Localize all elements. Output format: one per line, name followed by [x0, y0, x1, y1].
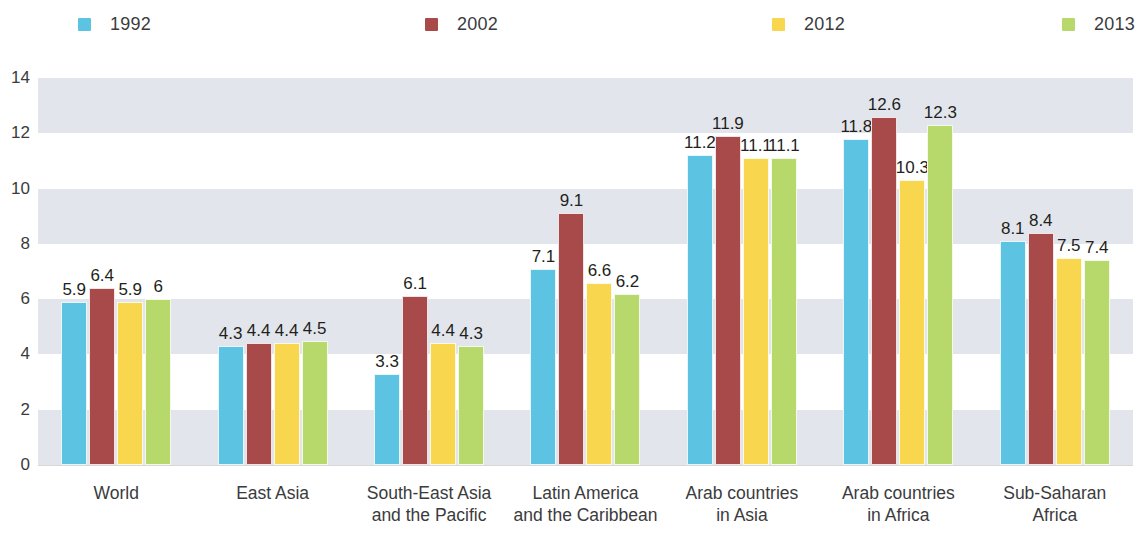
bar-rect[interactable]: [530, 269, 556, 465]
legend-label: 2012: [804, 15, 845, 33]
bar-rect[interactable]: [374, 374, 400, 465]
y-axis-tick-4: 4: [0, 345, 30, 362]
bar-rect[interactable]: [302, 341, 328, 465]
bar-1992[interactable]: 8.1: [1000, 78, 1026, 465]
bar-rect[interactable]: [743, 158, 769, 465]
bar-2013[interactable]: 6.2: [614, 78, 640, 465]
bar-rect[interactable]: [218, 346, 244, 465]
bar-rect[interactable]: [246, 343, 272, 465]
bar-rect[interactable]: [1000, 241, 1026, 465]
bar-value-label: 3.3: [375, 353, 399, 370]
category-label-2: South-East Asiaand the Pacific: [351, 482, 507, 526]
category-label-line2: in Africa: [820, 504, 976, 526]
legend-item-2013[interactable]: 2013: [1062, 14, 1135, 34]
bar-value-label: 9.1: [560, 192, 584, 209]
bar-rect[interactable]: [927, 125, 953, 465]
x-axis-category-labels: WorldEast AsiaSouth-East Asiaand the Pac…: [38, 474, 1133, 545]
bar-group-bars: 8.18.47.57.4: [977, 78, 1133, 465]
bar-rect[interactable]: [771, 158, 797, 465]
category-label-line2: and the Caribbean: [507, 504, 663, 526]
category-label-line2: in Asia: [664, 504, 820, 526]
bar-rect[interactable]: [430, 343, 456, 465]
bar-value-label: 6.6: [588, 262, 612, 279]
category-label-line2: and the Pacific: [351, 504, 507, 526]
bar-rect[interactable]: [1028, 233, 1054, 465]
category-label-1: East Asia: [194, 482, 350, 504]
category-label-line2: Africa: [977, 504, 1133, 526]
bar-group: 4.34.44.44.5: [194, 78, 350, 465]
bar-value-label: 4.5: [303, 320, 327, 337]
bar-2002[interactable]: 6.4: [89, 78, 115, 465]
bar-2002[interactable]: 4.4: [246, 78, 272, 465]
bar-rect[interactable]: [558, 213, 584, 465]
bar-rect[interactable]: [458, 346, 484, 465]
bar-rect[interactable]: [843, 139, 869, 465]
bar-value-label: 4.4: [431, 322, 455, 339]
legend-item-2002[interactable]: 2002: [425, 14, 498, 34]
bar-value-label: 12.6: [868, 96, 901, 113]
bar-value-label: 5.9: [62, 281, 86, 298]
bar-2012[interactable]: 7.5: [1056, 78, 1082, 465]
category-label-line1: Latin America: [532, 483, 638, 503]
bar-1992[interactable]: 4.3: [218, 78, 244, 465]
bar-rect[interactable]: [117, 302, 143, 465]
bar-rect[interactable]: [1056, 258, 1082, 465]
bar-group-bars: 7.19.16.66.2: [507, 78, 663, 465]
category-label-line1: Arab countries: [685, 483, 798, 503]
legend-item-2012[interactable]: 2012: [772, 14, 845, 34]
bar-2012[interactable]: 4.4: [430, 78, 456, 465]
bar-2013[interactable]: 11.1: [771, 78, 797, 465]
bar-1992[interactable]: 11.8: [843, 78, 869, 465]
bar-group-bars: 11.211.911.111.1: [664, 78, 820, 465]
bar-value-label: 4.3: [219, 325, 243, 342]
bar-2013[interactable]: 4.3: [458, 78, 484, 465]
bar-rect[interactable]: [899, 180, 925, 465]
bar-2012[interactable]: 5.9: [117, 78, 143, 465]
bar-group: 5.96.45.96: [38, 78, 194, 465]
bar-2013[interactable]: 4.5: [302, 78, 328, 465]
category-label-5: Arab countriesin Africa: [820, 482, 976, 526]
bar-1992[interactable]: 7.1: [530, 78, 556, 465]
bar-group-bars: 3.36.14.44.3: [351, 78, 507, 465]
category-label-4: Arab countriesin Asia: [664, 482, 820, 526]
bar-2002[interactable]: 9.1: [558, 78, 584, 465]
bar-2013[interactable]: 6: [145, 78, 171, 465]
y-axis-tick-6: 6: [0, 290, 30, 307]
bar-rect[interactable]: [1084, 260, 1110, 465]
bar-rect[interactable]: [586, 283, 612, 465]
bar-rect[interactable]: [687, 155, 713, 465]
bar-2012[interactable]: 6.6: [586, 78, 612, 465]
y-axis-tick-2: 2: [0, 401, 30, 418]
bar-2002[interactable]: 11.9: [715, 78, 741, 465]
bar-group-bars: 11.812.610.312.3: [820, 78, 976, 465]
bar-2013[interactable]: 12.3: [927, 78, 953, 465]
bar-1992[interactable]: 11.2: [687, 78, 713, 465]
bar-group: 11.211.911.111.1: [664, 78, 820, 465]
bar-2012[interactable]: 10.3: [899, 78, 925, 465]
bar-2012[interactable]: 11.1: [743, 78, 769, 465]
legend-swatch-icon: [772, 18, 785, 31]
category-label-line1: World: [94, 483, 139, 503]
bar-rect[interactable]: [274, 343, 300, 465]
bar-rect[interactable]: [145, 299, 171, 465]
legend-label: 1992: [110, 15, 151, 33]
bar-2002[interactable]: 6.1: [402, 78, 428, 465]
bar-rect[interactable]: [402, 296, 428, 465]
bar-1992[interactable]: 3.3: [374, 78, 400, 465]
bar-rect[interactable]: [61, 302, 87, 465]
y-axis-tick-12: 12: [0, 124, 30, 141]
bar-rect[interactable]: [614, 294, 640, 465]
bar-2012[interactable]: 4.4: [274, 78, 300, 465]
bar-rect[interactable]: [871, 117, 897, 465]
legend-swatch-icon: [425, 18, 438, 31]
bar-2013[interactable]: 7.4: [1084, 78, 1110, 465]
legend-swatch-icon: [1062, 18, 1075, 31]
legend-item-1992[interactable]: 1992: [78, 14, 151, 34]
bar-rect[interactable]: [89, 288, 115, 465]
category-label-line1: Sub-Saharan: [1003, 483, 1106, 503]
bar-2002[interactable]: 8.4: [1028, 78, 1054, 465]
bar-2002[interactable]: 12.6: [871, 78, 897, 465]
bar-value-label: 6: [153, 278, 162, 295]
bar-rect[interactable]: [715, 136, 741, 465]
bar-1992[interactable]: 5.9: [61, 78, 87, 465]
